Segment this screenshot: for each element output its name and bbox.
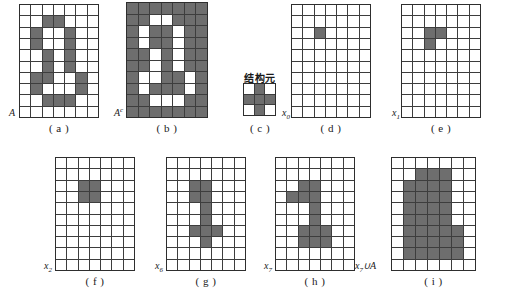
- grid-cell: [196, 3, 207, 14]
- grid-cell: [470, 73, 480, 83]
- grid-cell: [458, 5, 468, 15]
- grid-cell: [127, 61, 138, 72]
- grid-cell: [404, 248, 415, 258]
- grid-cell: [292, 62, 302, 72]
- grid-cell: [65, 50, 75, 60]
- grid-cell: [67, 215, 77, 225]
- panel-caption-b: ( b ): [126, 122, 208, 134]
- grid-cell: [337, 39, 347, 49]
- grid-cell: [402, 73, 412, 83]
- grid-cell: [458, 16, 468, 26]
- grid-cell: [43, 62, 53, 72]
- grid-cell: [464, 260, 475, 270]
- grid-cell: [326, 84, 336, 94]
- grid-cell: [315, 50, 325, 60]
- grid-cell: [88, 73, 98, 83]
- grid-cell: [167, 203, 177, 213]
- grid-cell: [337, 50, 347, 60]
- grid-cell: [326, 16, 336, 26]
- grid-cell: [440, 169, 451, 179]
- panel-label-i: x7∪A: [355, 261, 376, 274]
- grid-cell: [150, 107, 161, 118]
- grid-cell: [20, 16, 30, 26]
- grid-cell: [190, 181, 200, 191]
- grid-cell: [88, 5, 98, 15]
- grid-cell: [20, 62, 30, 72]
- grid-cell: [416, 215, 427, 225]
- grid-cell: [101, 260, 111, 270]
- morphology-figure: A( a )Ac( b )结构元( c )x0( d )x1( e )x2( f…: [0, 0, 505, 305]
- grid-cell: [404, 158, 415, 168]
- grid-cell: [337, 95, 347, 105]
- grid-cell: [76, 5, 86, 15]
- grid-cell: [162, 15, 173, 26]
- grid-cell: [436, 5, 446, 15]
- grid-cell: [190, 260, 200, 270]
- grid-cell: [79, 226, 89, 236]
- panel-label-b: Ac: [114, 107, 123, 118]
- grid-cell: [54, 73, 64, 83]
- grid-cell: [428, 203, 439, 213]
- grid-cell: [404, 181, 415, 191]
- grid-cell: [79, 260, 89, 270]
- grid-cell: [413, 95, 423, 105]
- grid-cell: [326, 107, 336, 117]
- grid-cell: [360, 73, 370, 83]
- structuring-element-title: 结构元: [233, 70, 287, 85]
- grid-cell: [428, 215, 439, 225]
- grid-cell: [43, 84, 53, 94]
- grid-cell: [321, 237, 331, 247]
- grid-cell: [348, 107, 358, 117]
- grid-cell: [223, 260, 233, 270]
- grid-cell: [79, 215, 89, 225]
- grid-cell: [139, 95, 150, 106]
- grid-cell: [65, 84, 75, 94]
- grid-cell: [79, 248, 89, 258]
- grid-cell: [127, 26, 138, 37]
- grid-cell: [464, 248, 475, 258]
- grid-cell: [392, 260, 403, 270]
- grid-cell: [348, 50, 358, 60]
- grid-cell: [436, 16, 446, 26]
- grid-cell: [201, 260, 211, 270]
- grid-cell: [464, 203, 475, 213]
- grid-cell: [310, 203, 320, 213]
- grid-cell: [344, 169, 354, 179]
- grid-cell: [178, 203, 188, 213]
- grid-cell: [321, 226, 331, 236]
- grid-cell: [173, 95, 184, 106]
- grid-cell: [440, 158, 451, 168]
- grid-cell: [310, 248, 320, 258]
- grid-cell: [67, 169, 77, 179]
- grid-cell: [139, 107, 150, 118]
- grid-cell: [43, 16, 53, 26]
- grid-cell: [31, 84, 41, 94]
- grid-cell: [212, 215, 222, 225]
- grid-cell: [413, 107, 423, 117]
- grid-cell: [315, 5, 325, 15]
- grid-cell: [223, 237, 233, 247]
- grid-cell: [321, 215, 331, 225]
- grid-cell: [139, 84, 150, 95]
- grid-cell: [139, 15, 150, 26]
- grid-cell: [303, 50, 313, 60]
- grid-cell: [326, 95, 336, 105]
- grid-cell: [332, 181, 342, 191]
- grid-cell: [88, 39, 98, 49]
- grid-cell: [337, 62, 347, 72]
- grid-cell: [416, 248, 427, 258]
- panel-caption-e: ( e ): [401, 122, 481, 134]
- grid-cell: [190, 158, 200, 168]
- grid-cell: [428, 260, 439, 270]
- grid-cell: [458, 28, 468, 38]
- grid-cell: [101, 237, 111, 247]
- grid-cell: [76, 95, 86, 105]
- grid-cell: [67, 158, 77, 168]
- grid-cell: [416, 203, 427, 213]
- grid-cell: [67, 248, 77, 258]
- grid-cell: [190, 248, 200, 258]
- panel-caption-i: ( i ): [391, 275, 476, 287]
- grid-cell: [196, 38, 207, 49]
- grid-cell: [416, 158, 427, 168]
- grid-cell: [344, 248, 354, 258]
